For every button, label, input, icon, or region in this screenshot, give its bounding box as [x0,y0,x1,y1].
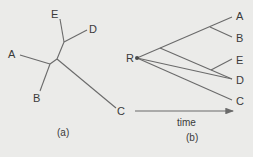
branch-c [57,59,116,108]
leaf-label-a: A [8,48,16,60]
root-label: R [126,52,134,64]
leaf-label-e: E [51,8,58,20]
leaf-label-b: B [33,92,40,104]
leaf-label-d: D [89,23,97,35]
leaf-label-a: A [236,10,244,22]
branch-e [211,59,232,70]
branch-root-d [137,58,232,79]
branch-root-a [137,17,232,58]
root-node [135,56,139,60]
phylogenetic-tree-figure: E D A B C (a) R A B E D C time (b) [0,0,253,157]
leaf-label-c: C [117,105,125,117]
leaf-label-c: C [236,95,244,107]
branch-ed-clade [160,48,232,79]
panel-caption-b: (b) [186,132,198,143]
leaf-label-d: D [236,74,244,86]
time-axis-label: time [177,117,196,128]
branch-e [60,19,64,42]
branch-internal-de [57,42,64,59]
rooted-tree-panel: R A B E D C time (b) [126,10,244,143]
branch-a [20,55,50,64]
branch-c [137,58,232,100]
unrooted-tree-panel: E D A B C (a) [8,8,125,138]
leaf-label-b: B [236,32,243,44]
branch-b [40,64,50,91]
panel-caption-a: (a) [57,127,69,138]
leaf-label-e: E [236,54,243,66]
branch-internal-ab [50,59,57,64]
branch-b [210,27,232,37]
branch-d [64,30,87,42]
